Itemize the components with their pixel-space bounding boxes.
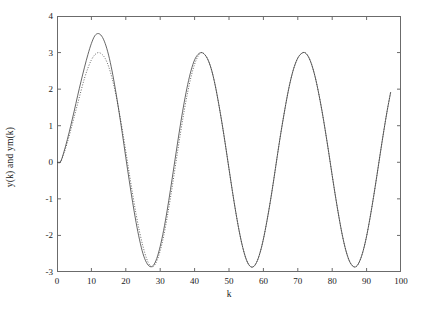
figure-canvas: y(k) and ym(k) k 0102030405060708090100 … — [0, 0, 425, 314]
y-tick-label: 0 — [35, 157, 53, 167]
y-tick-label: -1 — [35, 194, 53, 204]
x-tick-label: 30 — [156, 276, 165, 286]
y-tick-label: 2 — [35, 84, 53, 94]
x-tick-label: 40 — [190, 276, 199, 286]
data-series-group — [57, 34, 391, 268]
x-tick-label: 80 — [328, 276, 337, 286]
y-tick-label: 1 — [35, 121, 53, 131]
y-tick-label: 4 — [35, 11, 53, 21]
plot-area — [57, 16, 401, 272]
y-axis-label: y(k) and ym(k) — [5, 127, 15, 187]
y-tick-label: 3 — [35, 48, 53, 58]
x-tick-label: 20 — [121, 276, 130, 286]
series-line — [57, 52, 391, 267]
plot-svg — [57, 16, 401, 272]
x-tick-label: 70 — [293, 276, 302, 286]
y-tick-label: -3 — [35, 267, 53, 277]
x-axis-label: k — [227, 289, 232, 299]
axes-box — [58, 17, 401, 272]
y-tick-label: -2 — [35, 230, 53, 240]
x-tick-label: 50 — [225, 276, 234, 286]
x-tick-label: 10 — [87, 276, 96, 286]
x-tick-label: 60 — [259, 276, 268, 286]
x-tick-label: 100 — [394, 276, 408, 286]
series-line — [57, 34, 391, 268]
x-tick-label: 0 — [55, 276, 60, 286]
x-tick-label: 90 — [362, 276, 371, 286]
